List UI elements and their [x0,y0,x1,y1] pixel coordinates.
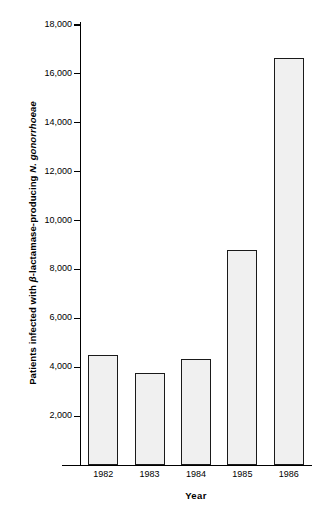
y-axis-tick [74,318,80,319]
bar-1986 [274,58,304,465]
x-axis-tick-label: 1985 [219,470,265,479]
y-axis-tick-label: 10,000 [26,216,72,225]
y-axis-tick-label: 16,000 [26,69,72,78]
y-axis-tick [74,367,80,368]
x-axis-tick-group: 19821983198419851986 [80,470,312,486]
x-axis-tick-label: 1983 [126,470,172,479]
x-axis-tick-label: 1986 [266,470,312,479]
y-axis-tick-label: 4,000 [26,362,72,371]
bars-layer [80,25,312,465]
x-axis-tick-label: 1984 [173,470,219,479]
bar-1982 [88,355,118,465]
y-axis-tick [74,269,80,270]
y-axis-tick [74,122,80,123]
x-axis-title: Year [80,491,312,501]
bar-1983 [135,373,165,465]
y-axis-tick-label: 8,000 [26,264,72,273]
bar-chart-figure: Patients infected with β-lactamase-produ… [0,0,325,513]
y-axis-tick [74,171,80,172]
y-axis-tick-label: 14,000 [26,118,72,127]
bar-1984 [181,359,211,465]
y-axis-tick [74,416,80,417]
y-axis-tick-label: 6,000 [26,313,72,322]
x-axis-tick-label: 1982 [80,470,126,479]
y-axis-tick [74,73,80,74]
bar-1985 [227,250,257,465]
y-axis-tick-label: 2,000 [26,411,72,420]
y-axis-tick-group: 2,0004,0006,0008,00010,00012,00014,00016… [22,0,72,513]
y-axis-tick-label: 18,000 [26,20,72,29]
y-axis-tick [74,220,80,221]
y-axis-tick [74,24,80,25]
y-axis-tick-label: 12,000 [26,167,72,176]
